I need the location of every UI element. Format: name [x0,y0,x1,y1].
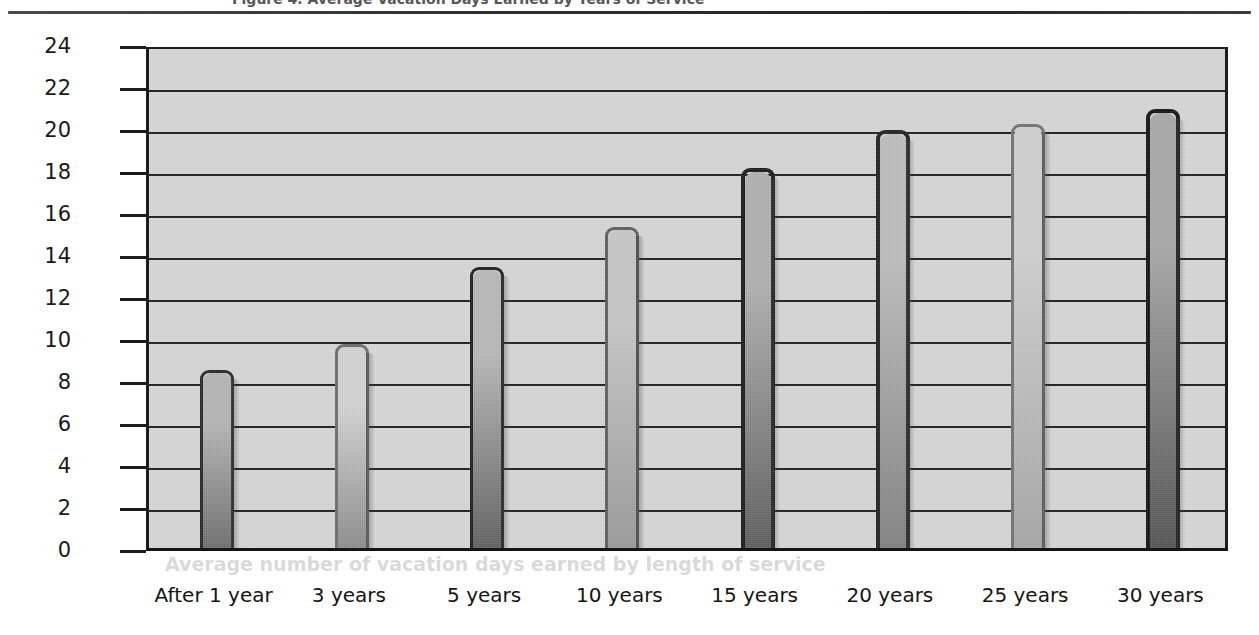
bar-shadow [635,236,645,548]
bar [200,370,234,549]
y-axis-tick-label: 14 [11,246,71,267]
y-axis-tick-mark [120,172,146,175]
bar-fill [473,270,501,548]
bar-shadow [1041,133,1051,548]
y-axis-tick-mark [120,382,146,385]
y-axis-tick-mark [120,424,146,427]
bar-shadow [905,140,915,548]
gridline [149,174,1225,176]
y-axis-tick-label: 2 [11,498,71,519]
x-axis-tick-label: 30 years [1117,583,1204,607]
x-axis-tick-label: After 1 year [155,583,273,607]
y-axis-tick-mark [120,256,146,259]
bar [1146,109,1180,548]
bar-shadow [1175,119,1185,548]
gridline [149,384,1225,386]
bar-shadow [500,276,510,548]
bar [335,344,369,548]
x-axis-tick-label: 15 years [711,583,798,607]
gridline [149,258,1225,260]
bar-fill [880,134,906,548]
y-axis-tick-mark [120,214,146,217]
y-axis-tick-label: 8 [11,372,71,393]
gridline [149,216,1225,218]
y-axis-tick-mark [120,508,146,511]
bar-shadow [230,379,240,549]
bar-fill [1150,113,1176,548]
gridline [149,426,1225,428]
gridline [149,510,1225,512]
gridline [149,90,1225,92]
x-axis-tick-label: 25 years [982,583,1069,607]
bar [470,267,504,548]
y-axis-tick-mark [120,550,146,553]
bar-fill [203,373,231,549]
gridline [149,342,1225,344]
y-axis-tick-mark [120,130,146,133]
bar-shadow [365,353,375,548]
y-axis-tick-label: 24 [11,36,71,57]
y-axis-tick-mark [120,46,146,49]
y-axis-tick-label: 6 [11,414,71,435]
x-axis-tick-label: 10 years [576,583,663,607]
y-axis-tick-label: 10 [11,330,71,351]
y-axis-tick-mark [120,340,146,343]
plot-area [146,47,1228,551]
y-axis-tick-mark [120,88,146,91]
x-axis-tick-label: 5 years [447,583,521,607]
bar [605,227,639,548]
bar [876,130,910,548]
bar-shadow [770,178,780,548]
background-bleedthrough-text: Average number of vacation days earned b… [165,553,1065,575]
bar [741,168,775,548]
y-axis-tick-label: 16 [11,204,71,225]
y-axis-tick-label: 20 [11,120,71,141]
y-axis-tick-label: 4 [11,456,71,477]
y-axis-tick-label: 12 [11,288,71,309]
bar-fill [338,347,366,548]
bar [1011,124,1045,548]
y-axis-tick-label: 22 [11,78,71,99]
bar-fill [608,230,636,548]
y-axis-tick-mark [120,466,146,469]
bar-chart: Average Number of Days Earned 0246810121… [0,0,1259,635]
y-axis-tick-label: 18 [11,162,71,183]
y-axis-tick-label: 0 [11,540,71,561]
gridline [149,468,1225,470]
y-axis-tick-mark [120,298,146,301]
x-axis-tick-label: 20 years [846,583,933,607]
x-axis-tick-label: 3 years [312,583,386,607]
gridline [149,300,1225,302]
gridline [149,132,1225,134]
bar-fill [1014,127,1042,548]
bar-fill [745,172,771,548]
